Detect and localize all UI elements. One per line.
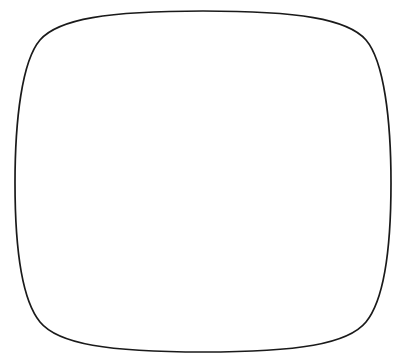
bar-chart-illustration (0, 0, 406, 363)
rounded-squircle-border (15, 11, 391, 352)
illustration-canvas (0, 0, 406, 363)
